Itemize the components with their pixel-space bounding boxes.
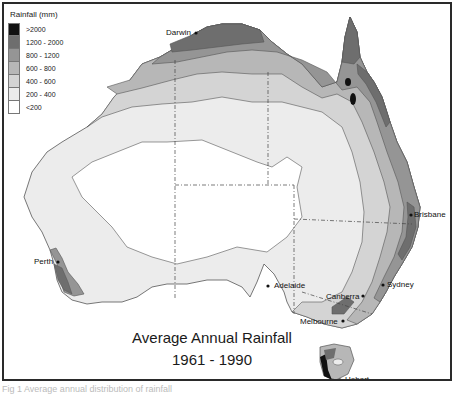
legend-item: >2000 xyxy=(8,23,94,36)
legend-swatch xyxy=(8,23,20,36)
legend-title: Rainfall (mm) xyxy=(10,10,94,19)
legend-swatch xyxy=(8,75,20,88)
legend-label: 200 - 400 xyxy=(26,91,56,98)
city-label-sydney: Sydney xyxy=(387,280,414,289)
map-frame: Rainfall (mm) >20001200 - 2000800 - 1200… xyxy=(2,2,452,381)
figure-caption: Fig 1 Average annual distribution of rai… xyxy=(2,384,172,394)
legend-swatch xyxy=(8,101,20,114)
city-label-canberra: Canberra xyxy=(326,292,359,301)
legend-swatch xyxy=(8,36,20,49)
legend-rows: >20001200 - 2000800 - 1200600 - 800400 -… xyxy=(8,23,94,114)
city-label-hobart: Hobart xyxy=(345,375,369,381)
city-label-perth: Perth xyxy=(34,257,53,266)
legend-item: 400 - 600 xyxy=(8,75,94,88)
map-subtitle: 1961 - 1990 xyxy=(124,351,300,368)
city-label-darwin: Darwin xyxy=(166,28,191,37)
legend-label: <200 xyxy=(26,104,42,111)
city-label-adelaide: Adelaide xyxy=(274,281,305,290)
legend-item: 1200 - 2000 xyxy=(8,36,94,49)
legend-item: <200 xyxy=(8,101,94,114)
city-label-melbourne: Melbourne xyxy=(300,317,338,326)
legend-swatch xyxy=(8,62,20,75)
legend-label: 1200 - 2000 xyxy=(26,39,63,46)
legend-swatch xyxy=(8,88,20,101)
legend-swatch xyxy=(8,49,20,62)
legend-item: 800 - 1200 xyxy=(8,49,94,62)
legend-item: 600 - 800 xyxy=(8,62,94,75)
legend-item: 200 - 400 xyxy=(8,88,94,101)
legend-label: 600 - 800 xyxy=(26,65,56,72)
city-label-brisbane: Brisbane xyxy=(414,210,446,219)
legend: Rainfall (mm) >20001200 - 2000800 - 1200… xyxy=(8,8,94,114)
map-title: Average Annual Rainfall xyxy=(124,329,300,346)
legend-label: >2000 xyxy=(26,26,46,33)
legend-label: 800 - 1200 xyxy=(26,52,59,59)
legend-label: 400 - 600 xyxy=(26,78,56,85)
